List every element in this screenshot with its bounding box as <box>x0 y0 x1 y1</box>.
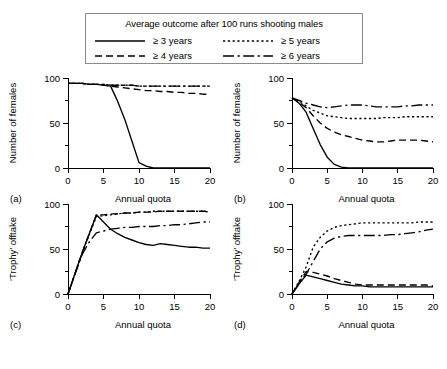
series-line-solid <box>292 98 433 168</box>
chart-svg-d: 05010005101520Annual quota‘Trophy’ offta… <box>224 196 447 346</box>
y-tick-label: 100 <box>268 73 284 84</box>
x-tick-label: 0 <box>65 175 70 186</box>
y-axis-title: Number of females <box>7 83 18 164</box>
axis-lines <box>68 78 210 168</box>
x-tick-label: 10 <box>134 301 145 312</box>
legend-label-4-years: ≥ 4 years <box>153 51 192 61</box>
x-tick-label: 15 <box>392 175 403 186</box>
x-tick-label: 5 <box>101 175 106 186</box>
x-tick-label: 20 <box>205 175 216 186</box>
legend-swatch-dashdot <box>222 51 274 61</box>
x-tick-label: 20 <box>205 301 216 312</box>
legend-entries: ≥ 3 years ≥ 5 years ≥ 4 years ≥ 6 years <box>86 34 362 64</box>
legend-entry-5-years: ≥ 5 years <box>222 36 362 46</box>
y-tick-label: 0 <box>55 163 60 174</box>
series-line-dashed <box>68 211 210 294</box>
legend-entry-3-years: ≥ 3 years <box>94 36 222 46</box>
legend-title: Average outcome after 100 runs shooting … <box>86 19 362 29</box>
y-tick-label: 50 <box>49 118 60 129</box>
x-axis-title: Annual quota <box>115 319 172 330</box>
legend-label-3-years: ≥ 3 years <box>153 36 192 46</box>
y-axis-title: ‘Trophy’ offtake <box>7 217 18 281</box>
chart-svg-c: 05010005101520Annual quota‘Trophy’ offta… <box>0 196 224 346</box>
x-tick-label: 15 <box>169 301 180 312</box>
series-line-dashed <box>68 83 210 94</box>
x-tick-label: 10 <box>357 301 368 312</box>
series-line-dashdot <box>292 229 433 294</box>
legend-entry-4-years: ≥ 4 years <box>94 51 222 61</box>
y-tick-label: 50 <box>49 244 60 255</box>
x-tick-label: 5 <box>101 301 106 312</box>
chart-panel-c: 05010005101520Annual quota‘Trophy’ offta… <box>0 196 224 346</box>
series-line-dashdot <box>292 98 433 108</box>
panel-letter: (c) <box>10 319 21 330</box>
y-tick-label: 50 <box>273 118 284 129</box>
legend-entry-6-years: ≥ 6 years <box>222 51 362 61</box>
x-tick-label: 15 <box>392 301 403 312</box>
x-tick-label: 0 <box>65 301 70 312</box>
x-tick-label: 10 <box>134 175 145 186</box>
legend-swatch-dotted <box>222 36 274 46</box>
x-tick-label: 15 <box>169 175 180 186</box>
y-axis-title: Number of females <box>231 83 242 164</box>
axis-lines <box>68 204 210 294</box>
legend-swatch-solid <box>94 36 146 46</box>
y-tick-label: 100 <box>44 199 60 210</box>
y-tick-label: 0 <box>279 289 284 300</box>
legend-box: Average outcome after 100 runs shooting … <box>85 13 363 64</box>
chart-panel-d: 05010005101520Annual quota‘Trophy’ offta… <box>224 196 447 346</box>
x-axis-title: Annual quota <box>339 319 396 330</box>
x-tick-label: 0 <box>289 175 294 186</box>
y-tick-label: 50 <box>273 244 284 255</box>
series-line-dotted <box>68 211 210 294</box>
x-tick-label: 20 <box>428 301 439 312</box>
legend-swatch-dashed <box>94 51 146 61</box>
x-tick-label: 5 <box>325 175 330 186</box>
x-tick-label: 10 <box>357 175 368 186</box>
x-tick-label: 5 <box>325 301 330 312</box>
legend-label-5-years: ≥ 5 years <box>281 36 320 46</box>
y-axis-title: ‘Trophy’ offtake <box>231 217 242 281</box>
x-tick-label: 20 <box>428 175 439 186</box>
y-tick-label: 100 <box>44 73 60 84</box>
y-tick-label: 0 <box>55 289 60 300</box>
y-tick-label: 100 <box>268 199 284 210</box>
x-tick-label: 0 <box>289 301 294 312</box>
series-line-solid <box>68 83 210 168</box>
series-line-dashed <box>292 272 433 295</box>
axis-lines <box>292 78 433 168</box>
legend-label-6-years: ≥ 6 years <box>281 51 320 61</box>
y-tick-label: 0 <box>279 163 284 174</box>
panel-letter: (d) <box>234 319 246 330</box>
